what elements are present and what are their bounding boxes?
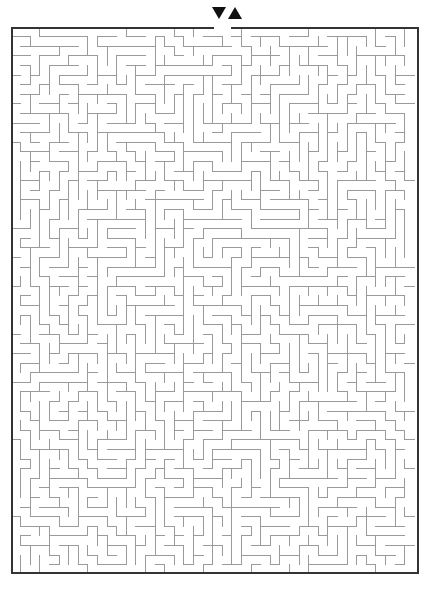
maze-canvas — [11, 27, 419, 574]
maze-puzzle-page — [0, 0, 432, 590]
triangle-down-icon — [212, 7, 226, 19]
maze-markers — [0, 0, 432, 27]
maze-grid — [11, 27, 419, 574]
triangle-up-icon — [228, 7, 242, 19]
